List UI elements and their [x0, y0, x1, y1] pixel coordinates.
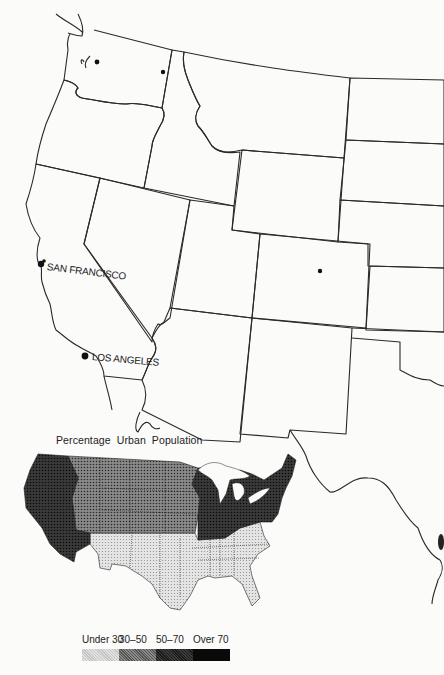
legend-swatch-50-70: [156, 649, 193, 661]
legend-label-under-30: Under 30: [82, 634, 119, 647]
legend-swatch-under-30: [82, 649, 119, 661]
inset-title: Percentage Urban Population: [56, 434, 202, 446]
legend-swatch-over-70: [193, 649, 230, 661]
city-dot-denver: [318, 269, 322, 273]
state-nebraska: [338, 200, 444, 268]
legend-swatch-30-50: [119, 649, 156, 661]
city-dot-spokane: [161, 70, 165, 74]
legend-label-50-70: 50–70: [156, 634, 193, 647]
legend-label-30-50: 30–50: [119, 634, 156, 647]
gulf-coast-fragment: [432, 560, 442, 604]
state-south-dakota: [340, 140, 444, 206]
state-kansas: [366, 266, 444, 332]
state-idaho: [144, 50, 240, 206]
state-oklahoma: [352, 328, 444, 386]
state-utah: [170, 200, 260, 318]
mexico-coast: [104, 376, 160, 432]
legend-label-over-70: Over 70: [193, 634, 230, 647]
state-colorado: [252, 234, 370, 328]
state-oregon: [36, 80, 164, 188]
state-montana: [183, 52, 350, 158]
state-washington: [64, 30, 172, 108]
puget-sound: [56, 14, 90, 68]
state-texas: [290, 430, 440, 560]
city-dot-oakland: [42, 259, 46, 263]
region-mountain-plains: [68, 456, 200, 533]
state-wyoming: [232, 150, 344, 242]
state-north-dakota: [346, 78, 444, 144]
legend: Under 30 30–50 50–70 Over 70: [82, 634, 232, 661]
urban-population-inset-map: [20, 448, 300, 613]
city-dot-los-angeles: [82, 353, 89, 360]
state-new-mexico: [240, 318, 352, 438]
city-dot-seattle: [95, 60, 100, 65]
state-arizona: [142, 308, 252, 442]
galveston-marker: [438, 534, 444, 550]
